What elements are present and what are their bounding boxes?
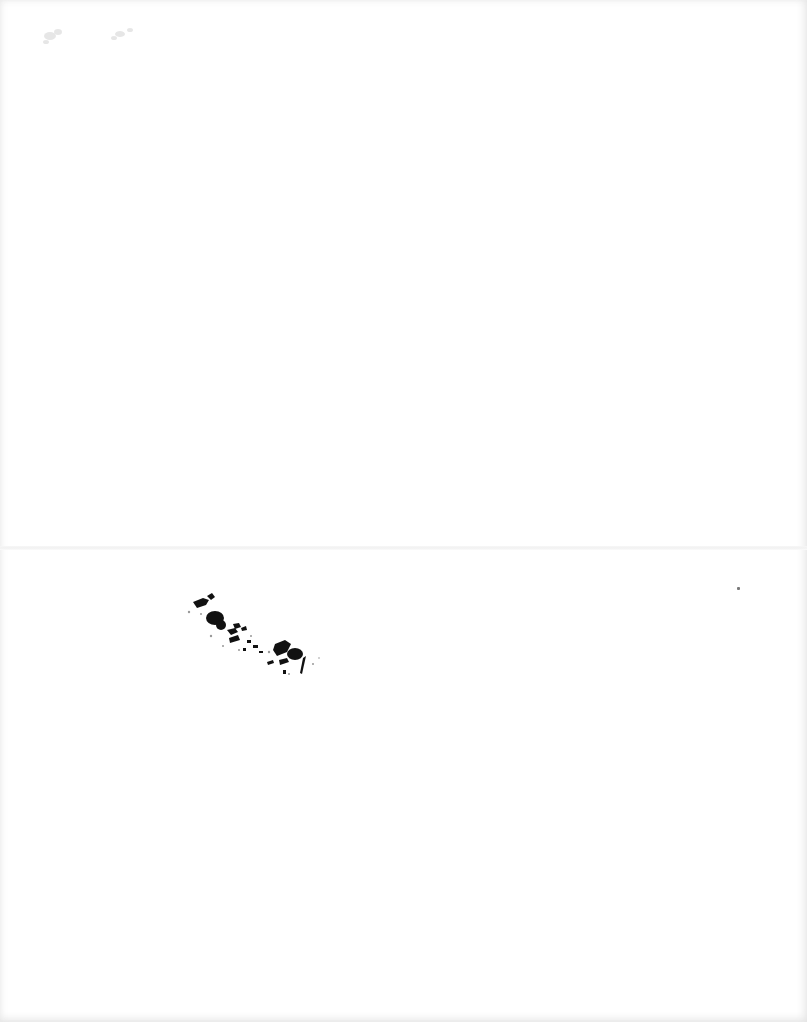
faint-smudge-mark xyxy=(38,22,143,48)
speck-mark xyxy=(737,587,740,590)
illegible-ink-blot xyxy=(183,588,333,680)
scanned-page xyxy=(0,0,807,1022)
fold-line xyxy=(0,546,807,550)
